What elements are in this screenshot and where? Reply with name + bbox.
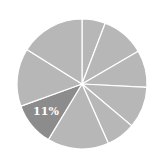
highlighted-slice-label: 11% [33, 105, 59, 118]
pie-chart: 11% [0, 0, 157, 161]
pie-slices [17, 19, 147, 149]
